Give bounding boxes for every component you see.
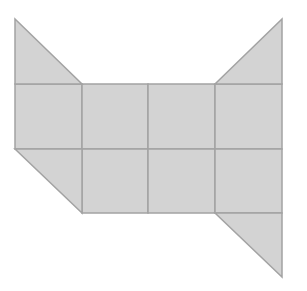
top-left-ear-triangle — [15, 19, 82, 84]
bottom-left-corner-triangle — [15, 149, 82, 213]
top-right-ear-triangle — [215, 19, 282, 84]
square-r1-c3 — [148, 84, 215, 149]
square-r1-c1 — [15, 84, 82, 149]
bottom-right-tail-triangle — [215, 213, 282, 277]
composite-shape-diagram — [0, 0, 307, 291]
square-r1-c2 — [82, 84, 148, 149]
square-r2-c3 — [148, 149, 215, 213]
diagram-canvas — [0, 0, 307, 291]
square-r2-c4 — [215, 149, 282, 213]
square-r2-c2 — [82, 149, 148, 213]
square-r1-c4 — [215, 84, 282, 149]
